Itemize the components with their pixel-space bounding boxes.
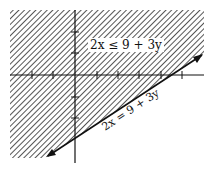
inequality-label: 2x ≤ 9 + 3y: [88, 38, 164, 52]
shaded-region: [10, 10, 204, 158]
inequality-graph: 2x = 9 + 3y: [0, 0, 213, 169]
